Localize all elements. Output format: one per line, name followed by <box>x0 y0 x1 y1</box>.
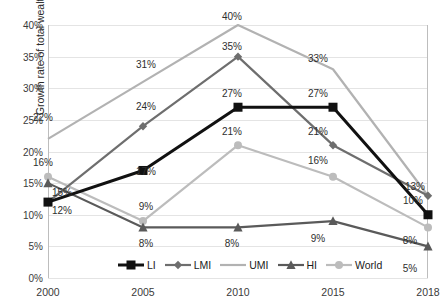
data-point-label: 27% <box>308 88 328 99</box>
data-point-label: 8% <box>225 238 239 249</box>
y-axis-tick: 40% <box>23 20 43 31</box>
x-axis-tick: 2005 <box>131 286 154 298</box>
data-point-label: 9% <box>311 233 325 244</box>
data-point-label: 40% <box>222 11 242 22</box>
legend-swatch-umi <box>220 259 246 271</box>
data-point-label: 33% <box>308 53 328 64</box>
x-axis-tick: 2018 <box>416 286 439 298</box>
series-line-li <box>48 107 428 215</box>
y-axis-tick: 30% <box>23 83 43 94</box>
legend-label: World <box>355 259 382 271</box>
y-axis-tick: 0% <box>29 273 43 284</box>
legend-item-umi[interactable]: UMI <box>220 259 268 271</box>
data-point-marker <box>174 261 182 269</box>
data-point-label: 13% <box>405 181 425 192</box>
data-point-label: 22% <box>33 112 53 123</box>
data-point-label: 5% <box>403 263 417 274</box>
data-point-marker <box>234 141 242 149</box>
x-axis-tick: 2010 <box>226 286 249 298</box>
data-point-label: 31% <box>136 59 156 70</box>
legend-label: LI <box>147 259 156 271</box>
gridline <box>48 278 428 279</box>
y-axis-tick: 20% <box>23 146 43 157</box>
data-point-marker <box>127 261 136 270</box>
chart-legend: LILMIUMIHIWorld <box>118 259 382 271</box>
data-point-label: 16% <box>308 155 328 166</box>
legend-item-lmi[interactable]: LMI <box>165 259 212 271</box>
legend-swatch-li <box>118 259 144 271</box>
y-axis-tick: 5% <box>29 241 43 252</box>
data-point-label: 8% <box>403 235 417 246</box>
data-point-marker <box>234 103 243 112</box>
data-point-label: 15% <box>52 187 72 198</box>
x-axis-tick: 2015 <box>321 286 344 298</box>
legend-label: UMI <box>249 259 268 271</box>
data-point-label: 16% <box>33 157 53 168</box>
y-axis-tick: 35% <box>23 51 43 62</box>
data-point-label: 10% <box>403 195 423 206</box>
legend-item-hi[interactable]: HI <box>278 259 318 271</box>
data-point-label: 21% <box>308 126 328 137</box>
data-point-label: 12% <box>52 205 72 216</box>
legend-swatch-hi <box>278 259 304 271</box>
data-point-label: 8% <box>139 238 153 249</box>
data-point-marker <box>335 261 343 269</box>
data-point-label: 21% <box>222 126 242 137</box>
y-axis-tick: 10% <box>23 209 43 220</box>
data-point-label: 27% <box>222 88 242 99</box>
legend-label: LMI <box>194 259 212 271</box>
data-point-label: 9% <box>139 201 153 212</box>
legend-swatch-world <box>326 259 352 271</box>
data-point-label: 24% <box>136 101 156 112</box>
legend-swatch-lmi <box>165 259 191 271</box>
y-axis-tick: 15% <box>23 178 43 189</box>
data-point-marker <box>424 223 432 231</box>
data-point-label: 17% <box>136 166 156 177</box>
legend-item-world[interactable]: World <box>326 259 382 271</box>
x-axis-tick: 2000 <box>36 286 59 298</box>
data-point-label: 35% <box>222 41 242 52</box>
legend-item-li[interactable]: LI <box>118 259 156 271</box>
data-point-marker <box>329 173 337 181</box>
data-point-marker <box>424 210 433 219</box>
data-point-marker <box>329 103 338 112</box>
legend-label: HI <box>307 259 318 271</box>
